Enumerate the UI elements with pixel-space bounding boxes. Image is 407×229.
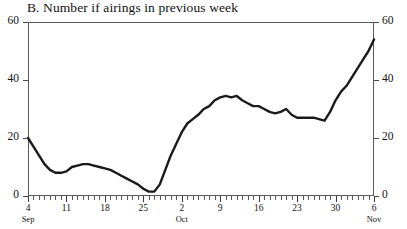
x-tick-minor bbox=[154, 196, 155, 200]
x-tick-minor bbox=[55, 196, 56, 200]
y-tick-right bbox=[374, 22, 379, 23]
x-tick-major bbox=[374, 196, 375, 202]
x-tick-major bbox=[105, 196, 106, 202]
x-tick-minor bbox=[176, 196, 177, 200]
x-tick-minor bbox=[121, 196, 122, 200]
x-tick-minor bbox=[286, 196, 287, 200]
series-line-airings bbox=[28, 22, 374, 196]
y-tick-label-right: 60 bbox=[382, 14, 404, 26]
chart-title: B. Number if airings in previous week bbox=[27, 0, 238, 16]
x-tick-minor bbox=[171, 196, 172, 200]
x-tick-minor bbox=[88, 196, 89, 200]
x-tick-minor bbox=[341, 196, 342, 200]
x-tick-minor bbox=[160, 196, 161, 200]
x-tick-minor bbox=[325, 196, 326, 200]
x-tick-minor bbox=[347, 196, 348, 200]
x-tick-label-month: Sep bbox=[13, 214, 43, 224]
x-tick-major bbox=[336, 196, 337, 202]
y-tick-label-left: 60 bbox=[0, 14, 19, 26]
x-tick-minor bbox=[204, 196, 205, 200]
x-tick-minor bbox=[369, 196, 370, 200]
x-tick-minor bbox=[77, 196, 78, 200]
x-tick-label-day: 4 bbox=[15, 203, 41, 213]
x-tick-minor bbox=[253, 196, 254, 200]
x-tick-major bbox=[66, 196, 67, 202]
x-tick-major bbox=[259, 196, 260, 202]
x-tick-minor bbox=[358, 196, 359, 200]
y-tick-left bbox=[23, 22, 28, 23]
x-tick-minor bbox=[281, 196, 282, 200]
x-tick-minor bbox=[314, 196, 315, 200]
x-tick-minor bbox=[226, 196, 227, 200]
x-tick-label-day: 6 bbox=[361, 203, 387, 213]
x-tick-minor bbox=[33, 196, 34, 200]
x-tick-major bbox=[182, 196, 183, 202]
x-tick-label-month: Oct bbox=[167, 214, 197, 224]
x-tick-minor bbox=[248, 196, 249, 200]
x-tick-label-day: 25 bbox=[130, 203, 156, 213]
x-tick-major bbox=[28, 196, 29, 202]
x-tick-minor bbox=[127, 196, 128, 200]
chart-screenshot: B. Number if airings in previous week 00… bbox=[0, 0, 407, 229]
x-tick-minor bbox=[165, 196, 166, 200]
y-tick-label-left: 20 bbox=[0, 130, 19, 142]
x-tick-minor bbox=[110, 196, 111, 200]
x-tick-minor bbox=[138, 196, 139, 200]
x-tick-minor bbox=[242, 196, 243, 200]
y-tick-left bbox=[23, 80, 28, 81]
x-tick-major bbox=[297, 196, 298, 202]
x-tick-minor bbox=[319, 196, 320, 200]
x-tick-minor bbox=[215, 196, 216, 200]
y-tick-label-right: 20 bbox=[382, 130, 404, 142]
plot-area bbox=[28, 22, 374, 196]
x-tick-minor bbox=[198, 196, 199, 200]
y-tick-label-right: 0 bbox=[382, 188, 404, 200]
x-tick-minor bbox=[99, 196, 100, 200]
x-tick-label-day: 23 bbox=[284, 203, 310, 213]
x-tick-minor bbox=[237, 196, 238, 200]
x-tick-label-day: 9 bbox=[207, 203, 233, 213]
x-tick-minor bbox=[363, 196, 364, 200]
x-tick-label-day: 11 bbox=[53, 203, 79, 213]
x-tick-minor bbox=[209, 196, 210, 200]
x-tick-minor bbox=[116, 196, 117, 200]
x-tick-major bbox=[220, 196, 221, 202]
x-tick-minor bbox=[270, 196, 271, 200]
x-tick-minor bbox=[39, 196, 40, 200]
x-tick-minor bbox=[303, 196, 304, 200]
x-tick-label-day: 18 bbox=[92, 203, 118, 213]
x-tick-minor bbox=[352, 196, 353, 200]
x-tick-major bbox=[143, 196, 144, 202]
y-tick-right bbox=[374, 138, 379, 139]
x-tick-minor bbox=[231, 196, 232, 200]
x-tick-minor bbox=[187, 196, 188, 200]
x-tick-minor bbox=[61, 196, 62, 200]
x-tick-minor bbox=[292, 196, 293, 200]
y-tick-label-left: 0 bbox=[0, 188, 19, 200]
x-tick-minor bbox=[308, 196, 309, 200]
x-tick-minor bbox=[193, 196, 194, 200]
x-tick-label-month: Nov bbox=[359, 214, 389, 224]
x-tick-minor bbox=[149, 196, 150, 200]
x-tick-label-day: 16 bbox=[246, 203, 272, 213]
x-tick-minor bbox=[264, 196, 265, 200]
x-tick-minor bbox=[72, 196, 73, 200]
x-tick-label-day: 30 bbox=[323, 203, 349, 213]
x-tick-minor bbox=[44, 196, 45, 200]
x-tick-minor bbox=[132, 196, 133, 200]
y-tick-label-right: 40 bbox=[382, 72, 404, 84]
x-tick-label-day: 2 bbox=[169, 203, 195, 213]
y-tick-right bbox=[374, 80, 379, 81]
y-tick-left bbox=[23, 138, 28, 139]
y-tick-label-left: 40 bbox=[0, 72, 19, 84]
x-tick-minor bbox=[50, 196, 51, 200]
x-tick-minor bbox=[275, 196, 276, 200]
x-tick-minor bbox=[94, 196, 95, 200]
x-tick-minor bbox=[330, 196, 331, 200]
x-tick-minor bbox=[83, 196, 84, 200]
